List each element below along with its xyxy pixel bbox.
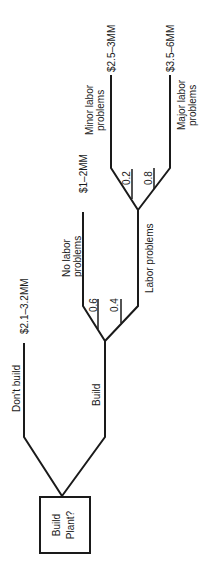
no-labor-label-line2: problems bbox=[72, 236, 83, 277]
minor-label-line2: problems bbox=[95, 90, 106, 131]
labor-prob: 0.4 bbox=[109, 298, 120, 312]
no-labor-prob: 0.6 bbox=[88, 298, 99, 312]
major-label-line2: problems bbox=[187, 85, 198, 126]
branch-dont-build bbox=[24, 343, 62, 496]
branch-no-labor bbox=[83, 212, 105, 341]
major-prob: 0.8 bbox=[143, 171, 154, 185]
major-payoff: $3.5–6MM bbox=[165, 25, 176, 72]
build-label: Build bbox=[91, 384, 102, 406]
root-label-line2: Plant? bbox=[65, 510, 76, 539]
minor-payoff: $2.5–3MM bbox=[106, 25, 117, 72]
labor-label: Labor problems bbox=[144, 224, 155, 293]
major-label-line1: Major labor bbox=[176, 79, 187, 130]
root-label-line1: Build bbox=[51, 514, 62, 536]
dont-build-payoff: $2.1–3.2MM bbox=[19, 278, 30, 334]
minor-label-line1: Minor labor bbox=[84, 84, 95, 135]
branch-major bbox=[138, 75, 170, 210]
no-labor-payoff: $1–2MM bbox=[78, 154, 89, 193]
branch-build bbox=[62, 341, 105, 496]
no-labor-label-line1: No labor bbox=[61, 239, 72, 277]
dont-build-label: Don't build bbox=[11, 365, 22, 412]
branch-minor bbox=[111, 75, 138, 210]
minor-prob: 0.2 bbox=[121, 171, 132, 185]
decision-tree: Build Plant? Don't build $2.1–3.2MM Buil… bbox=[0, 0, 205, 568]
